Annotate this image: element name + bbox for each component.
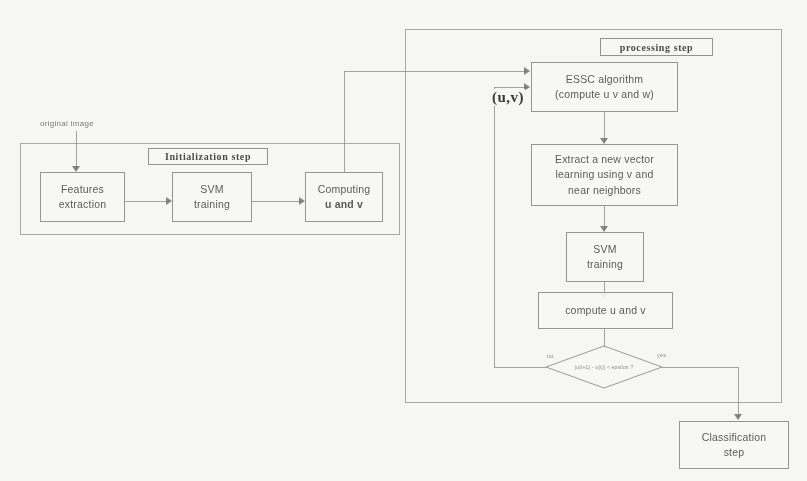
node-features-extraction[interactable]: Features extraction: [40, 172, 125, 222]
initialization-step-label: Initialization step: [148, 148, 268, 165]
node-svm-training-proc-line1: SVM: [593, 242, 616, 257]
node-svm-training-init-line1: SVM: [200, 182, 223, 197]
node-svm-training-proc-line2: training: [587, 257, 623, 272]
flowchart-canvas: processing step Initialization step orig…: [0, 0, 807, 481]
node-computing-uv-line2: u and v: [325, 197, 363, 212]
node-compute-uv-line1: compute u and v: [565, 303, 646, 318]
node-features-extraction-line2: extraction: [59, 197, 107, 212]
node-svm-training-init[interactable]: SVM training: [172, 172, 252, 222]
node-svm-training-init-line2: training: [194, 197, 230, 212]
edge-no-loopback-up: [494, 87, 495, 368]
edge-computing-to-essc-arrow: [524, 67, 530, 75]
node-extract-vector-line3: near neighbors: [568, 183, 641, 198]
node-classification-step-line1: Classification: [702, 430, 767, 445]
decision-text: |u(t+1) - u(t)| < epsilon ?: [545, 345, 663, 389]
edge-yes-down: [738, 367, 739, 418]
edge-yes-arrow: [734, 414, 742, 420]
node-essc-algorithm-line1: ESSC algorithm: [566, 72, 644, 87]
node-essc-algorithm[interactable]: ESSC algorithm (compute u v and w): [531, 62, 678, 112]
decision-label-no: no: [547, 353, 554, 359]
original-image-label: original image: [40, 119, 94, 128]
edge-features-to-svm: [125, 201, 169, 202]
initialization-step-label-text: Initialization step: [165, 151, 251, 162]
edge-decision-no: [494, 367, 546, 368]
edge-decision-yes: [662, 367, 738, 368]
node-computing-uv-line1: Computing: [318, 182, 371, 197]
node-computing-uv[interactable]: Computing u and v: [305, 172, 383, 222]
node-features-extraction-line1: Features: [61, 182, 104, 197]
node-essc-algorithm-line2: (compute u v and w): [555, 87, 654, 102]
input-arrow-line: [76, 131, 77, 169]
decision-convergence-test[interactable]: |u(t+1) - u(t)| < epsilon ?: [545, 345, 663, 389]
edge-svm-to-computing: [252, 201, 302, 202]
node-compute-uv[interactable]: compute u and v: [538, 292, 673, 329]
edge-computing-to-essc: [344, 71, 527, 72]
feedback-uv-label: (u,v): [491, 89, 525, 106]
node-classification-step[interactable]: Classification step: [679, 421, 789, 469]
node-classification-step-line2: step: [724, 445, 745, 460]
processing-step-label: processing step: [600, 38, 713, 56]
decision-label-yes: yes: [657, 352, 666, 358]
edge-no-loopback-top: [494, 87, 528, 88]
edge-computing-up: [344, 71, 345, 172]
node-svm-training-proc[interactable]: SVM training: [566, 232, 644, 282]
node-extract-vector-line2: learning using v and: [556, 167, 654, 182]
node-extract-vector-line1: Extract a new vector: [555, 152, 654, 167]
node-extract-vector[interactable]: Extract a new vector learning using v an…: [531, 144, 678, 206]
processing-step-label-text: processing step: [620, 42, 694, 53]
